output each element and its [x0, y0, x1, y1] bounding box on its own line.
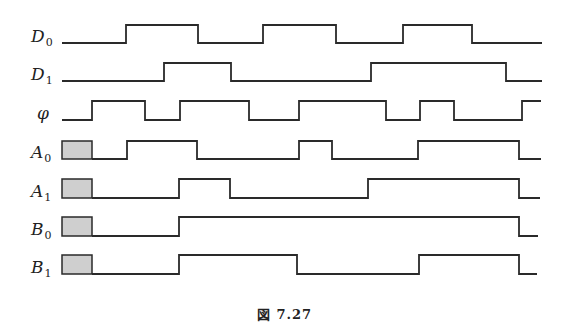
figure-caption: 図 7.27	[0, 304, 569, 323]
signal-label-d1: D1	[30, 64, 53, 87]
waveform-a0	[62, 141, 541, 159]
waveform-b1	[62, 255, 537, 274]
signal-subscript: 1	[45, 267, 52, 280]
signal-subscript: 0	[44, 152, 51, 165]
waveform-line	[62, 101, 541, 120]
signal-subscript: 0	[46, 36, 53, 49]
waveform-line	[92, 255, 537, 274]
waveform-d1	[62, 63, 542, 81]
timing-diagram: D0D1φA0A1B0B1	[0, 0, 569, 336]
signal-waveforms	[62, 25, 542, 274]
signal-subscript: 1	[46, 74, 53, 87]
signal-label-a1: A1	[29, 181, 51, 204]
signal-subscript: 1	[44, 191, 51, 204]
unknown-state-box	[62, 217, 92, 236]
signal-label-d0: D0	[30, 26, 53, 49]
signal-label-b1: B1	[30, 257, 52, 280]
waveform-line	[92, 217, 538, 236]
signal-subscript: 0	[45, 229, 52, 242]
signal-label-phi: φ	[37, 103, 49, 123]
unknown-state-box	[62, 141, 92, 159]
waveform-phi	[62, 101, 541, 120]
unknown-state-box	[62, 255, 92, 274]
waveform-line	[62, 25, 542, 43]
waveform-d0	[62, 25, 542, 43]
signal-labels: D0D1φA0A1B0B1	[29, 26, 53, 280]
waveform-line	[92, 141, 541, 159]
waveform-a1	[62, 179, 540, 198]
waveform-b0	[62, 217, 538, 236]
waveform-line	[62, 63, 542, 81]
waveform-line	[92, 179, 540, 198]
signal-label-b0: B0	[30, 219, 52, 242]
unknown-state-box	[62, 179, 92, 198]
signal-label-a0: A0	[29, 142, 51, 165]
